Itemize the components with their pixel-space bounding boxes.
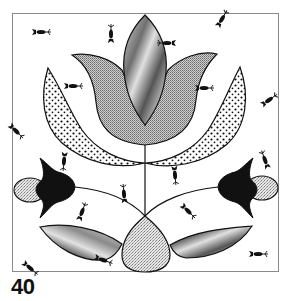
quilt-pattern-artwork — [0, 0, 287, 301]
plate-number: 40 — [11, 276, 34, 298]
